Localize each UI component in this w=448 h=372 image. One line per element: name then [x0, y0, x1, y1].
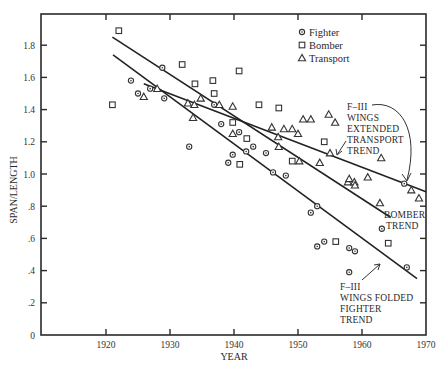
- legend-label-transport: Transport: [309, 53, 350, 64]
- fighter-point: [226, 160, 231, 165]
- transport-point: [289, 125, 296, 131]
- fighter-point: [347, 270, 352, 275]
- fighter-point: [263, 150, 268, 155]
- legend: FighterBomberTransport: [298, 27, 349, 64]
- transport-point: [326, 149, 333, 155]
- circle-dot: [149, 88, 151, 90]
- y-axis-title: SPAN/LENGTH: [8, 156, 19, 223]
- fighter-point: [128, 78, 133, 83]
- circle-dot: [245, 151, 247, 153]
- annotation-bomber-trend: BOMBER TREND: [384, 210, 426, 231]
- series-transport: [140, 85, 422, 206]
- annotation-bomber-line-0: BOMBER: [384, 210, 426, 220]
- annotation-transport-line-4: TREND: [347, 146, 380, 156]
- bomber-point: [244, 136, 250, 142]
- x-tick-label: 1930: [161, 340, 180, 350]
- fighter-point: [230, 152, 235, 157]
- transport-point: [268, 124, 275, 130]
- fighter-point: [315, 204, 320, 209]
- fighter-point: [283, 173, 288, 178]
- fighter-point: [135, 91, 140, 96]
- circle-dot: [163, 98, 165, 100]
- fighter-point: [352, 249, 357, 254]
- bomber-point: [276, 105, 282, 111]
- y-tick-label: 1.6: [23, 73, 35, 83]
- transport-point: [140, 93, 147, 99]
- annotation-arrow-head-curve: [402, 173, 411, 181]
- transport-point: [307, 116, 314, 122]
- legend-label-fighter: Fighter: [309, 27, 340, 38]
- bomber-point: [289, 158, 295, 164]
- scatter-chart: 1920193019401950196019700.2.4.6.81.01.21…: [0, 0, 448, 372]
- transport-point: [332, 119, 339, 125]
- circle-dot: [265, 152, 267, 154]
- fighter-point: [404, 265, 409, 270]
- fighter-point: [251, 144, 256, 149]
- fighter-point: [270, 170, 275, 175]
- x-tick-label: 1960: [353, 340, 372, 350]
- y-tick-label: .8: [28, 202, 35, 212]
- transport-point: [316, 159, 323, 165]
- fighter-point: [244, 149, 249, 154]
- transport-point: [415, 195, 422, 201]
- fighter-point: [187, 144, 192, 149]
- fighter-point: [347, 245, 352, 250]
- transport-point: [229, 130, 236, 136]
- annotation-bomber-line-1: TREND: [386, 221, 419, 231]
- legend-label-bomber: Bomber: [309, 40, 343, 51]
- annotation-transport-trend: F–III WINGS EXTENDED TRANSPORT TREND: [336, 102, 411, 181]
- fighter-point: [379, 226, 384, 231]
- circle-dot: [188, 146, 190, 148]
- x-tick-label: 1920: [97, 340, 116, 350]
- fighter-point: [402, 181, 407, 186]
- circle-dot: [348, 247, 350, 249]
- y-tick-label: .6: [28, 234, 35, 244]
- bomber-point: [230, 120, 236, 126]
- y-tick-label: 1.4: [23, 105, 35, 115]
- legend-marker-bomber: [299, 42, 305, 48]
- circle-dot: [238, 131, 240, 133]
- circle-dot: [403, 183, 405, 185]
- circle-dot: [137, 93, 139, 95]
- fighter-point: [308, 210, 313, 215]
- circle-dot: [130, 80, 132, 82]
- transport-point: [325, 111, 332, 117]
- y-tick-label: 1.8: [23, 41, 35, 51]
- circle-dot: [227, 162, 229, 164]
- bomber-point: [385, 240, 391, 246]
- bomber-point: [333, 239, 339, 245]
- bomber-point: [179, 62, 185, 68]
- bomber-point: [236, 68, 242, 74]
- transport-point: [346, 175, 353, 181]
- transport-point: [376, 199, 383, 205]
- x-tick-label: 1940: [225, 340, 244, 350]
- circle-dot: [316, 246, 318, 248]
- annotation-transport-line-2: EXTENDED: [347, 124, 399, 134]
- circle-dot: [232, 154, 234, 156]
- fighter-point: [160, 65, 165, 70]
- circle-dot: [213, 104, 215, 106]
- circle-dot: [252, 146, 254, 148]
- circle-dot: [316, 205, 318, 207]
- annotation-transport-line-1: WINGS: [347, 113, 379, 123]
- bomber-point: [110, 102, 116, 108]
- circle-dot: [354, 250, 356, 252]
- circle-dot: [301, 31, 303, 33]
- legend-marker-transport: [298, 54, 305, 60]
- circle-dot: [323, 241, 325, 243]
- transport-point: [300, 116, 307, 122]
- fighter-point: [237, 130, 242, 135]
- annotation-transport-line-0: F–III: [347, 102, 368, 112]
- y-tick-label: .4: [28, 266, 35, 276]
- y-tick-label: 1.2: [23, 137, 35, 147]
- bomber-point: [192, 81, 198, 87]
- circle-dot: [220, 123, 222, 125]
- transport-point: [280, 125, 287, 131]
- circle-dot: [310, 212, 312, 214]
- annotation-transport-line-3: TRANSPORT: [347, 135, 404, 145]
- annotation-arrow-transport: [337, 141, 346, 155]
- bomber-point: [256, 102, 262, 108]
- annotation-fighter-line-3: TREND: [340, 315, 373, 325]
- bomber-point: [116, 28, 122, 34]
- annotation-fighter-line-2: FIGHTER: [340, 304, 382, 314]
